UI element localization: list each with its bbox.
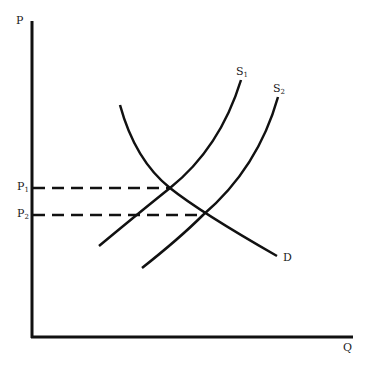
price-axis-label: P bbox=[16, 15, 23, 26]
p2-label: P2 bbox=[17, 208, 29, 221]
demand-curve bbox=[120, 105, 277, 256]
quantity-axis-label: Q bbox=[343, 342, 352, 353]
s1-label: S1 bbox=[236, 66, 248, 79]
p1-label: P1 bbox=[17, 181, 29, 194]
supply-demand-diagram: P Q P1 P2 S1 S2 D bbox=[0, 0, 369, 367]
s2-label: S2 bbox=[273, 83, 285, 96]
diagram-canvas bbox=[0, 0, 369, 367]
d-label: D bbox=[283, 252, 292, 263]
